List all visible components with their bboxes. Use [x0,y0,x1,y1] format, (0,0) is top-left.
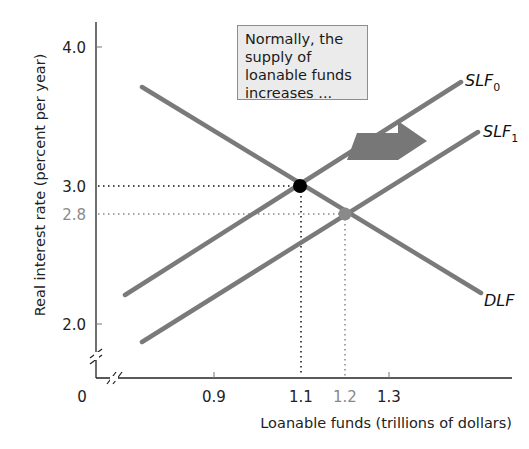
y-tick-2-0: 2.0 [62,316,86,334]
dlf-curve [142,87,481,293]
y-tick-4-0: 4.0 [62,39,86,57]
slf0-curve [125,82,461,295]
y-tick-3-0: 3.0 [62,178,86,196]
x-tick-0-9: 0.9 [202,388,226,406]
x-tick-1-3: 1.3 [377,388,401,406]
y-axis-title: Real interest rate (percent per year) [32,54,48,317]
slf0-label: SLF0 [465,71,500,94]
initial-equilibrium-point [293,179,307,193]
new-equilibrium-point [339,208,352,221]
annotation-line-2: supply of [245,48,367,66]
x-tick-1-2: 1.2 [333,388,357,406]
annotation-line-4: increases ... [245,84,367,102]
dlf-label: DLF [484,291,515,310]
slf1-label: SLF1 [483,122,518,145]
x-axis-title: Loanable funds (trillions of dollars) [260,415,512,431]
annotation-line-3: loanable funds [245,66,367,84]
x-tick-1-1: 1.1 [289,388,313,406]
annotation-box: Normally, the supply of loanable funds i… [237,25,368,100]
annotation-line-1: Normally, the [245,30,367,48]
slf1-curve [142,132,478,342]
origin-label: 0 [77,388,87,406]
y-tick-2-8: 2.8 [62,206,86,224]
